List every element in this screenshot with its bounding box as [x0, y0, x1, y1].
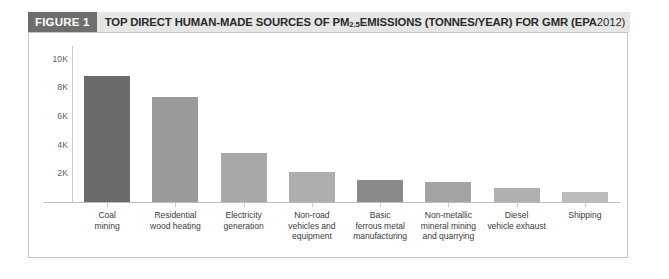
category-label: Coalmining — [73, 210, 141, 231]
bar — [357, 180, 403, 202]
category-label-line: Residential — [154, 210, 196, 220]
category-label-line: Coal — [98, 210, 115, 220]
bar — [425, 182, 471, 202]
category-label-line: Basic — [370, 210, 391, 220]
category-label-line: Shipping — [568, 210, 601, 220]
x-tick — [517, 203, 518, 207]
bar — [562, 192, 608, 202]
category-label-line: and quarrying — [422, 231, 474, 241]
bar — [289, 172, 335, 202]
category-label: Shipping — [551, 210, 619, 221]
category-label-line: Non-metallic — [425, 210, 472, 220]
bar — [221, 153, 267, 203]
category-label-line: Non-road — [294, 210, 329, 220]
category-label-line: Electricity — [226, 210, 262, 220]
category-label-line: ferrous metal — [355, 221, 405, 231]
category-label-line: vehicles and — [288, 221, 335, 231]
category-label: Residentialwood heating — [141, 210, 209, 231]
x-tick — [107, 203, 108, 207]
bar — [152, 97, 198, 202]
x-tick — [175, 203, 176, 207]
category-label: Basicferrous metalmanufacturing — [346, 210, 414, 242]
category-label-line: vehicle exhaust — [487, 221, 546, 231]
category-label-line: Diesel — [505, 210, 529, 220]
x-tick — [380, 203, 381, 207]
category-label-line: mining — [95, 221, 120, 231]
figure-container: FIGURE 1 TOP DIRECT HUMAN-MADE SOURCES O… — [0, 0, 669, 279]
bar — [84, 76, 130, 202]
category-label-line: generation — [224, 221, 264, 231]
category-label-line: equipment — [292, 231, 332, 241]
x-tick — [244, 203, 245, 207]
bar — [494, 188, 540, 202]
x-tick — [585, 203, 586, 207]
category-label: Electricitygeneration — [210, 210, 278, 231]
x-tick — [448, 203, 449, 207]
category-label-line: wood heating — [150, 221, 201, 231]
category-label: Non-roadvehicles andequipment — [278, 210, 346, 242]
x-axis-line — [44, 202, 620, 203]
category-label: Non-metallicmineral miningand quarrying — [414, 210, 482, 242]
x-tick — [312, 203, 313, 207]
category-label: Dieselvehicle exhaust — [483, 210, 551, 231]
bars-layer — [0, 0, 669, 202]
category-label-line: mineral mining — [421, 221, 476, 231]
category-label-line: manufacturing — [353, 231, 407, 241]
